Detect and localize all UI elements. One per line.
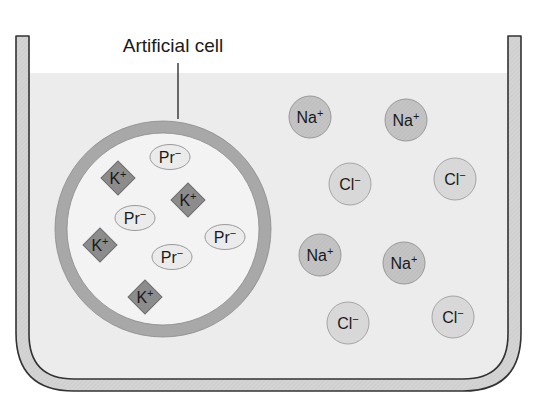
chloride-ion-symbol: Cl	[444, 171, 459, 188]
chloride-ion: Cl−	[329, 163, 371, 205]
potassium-ion-charge: +	[120, 168, 126, 180]
sodium-ion-charge: +	[317, 107, 323, 119]
protein-anion: Pr−	[115, 206, 155, 231]
protein-anion: Pr−	[150, 145, 190, 170]
potassium-ion-symbol: K	[109, 170, 120, 187]
potassium-ion-charge: +	[147, 287, 153, 299]
protein-anion: Pr−	[205, 225, 245, 250]
chloride-ion: Cl−	[432, 296, 474, 338]
potassium-ion-charge: +	[190, 190, 196, 202]
sodium-ion-symbol: Na	[393, 112, 414, 129]
protein-anion-charge: −	[175, 147, 181, 159]
chloride-ion-charge: −	[459, 169, 465, 181]
protein-anion: Pr−	[152, 245, 192, 270]
sodium-ion-symbol: Na	[297, 109, 318, 126]
sodium-ion-charge: +	[327, 245, 333, 257]
chloride-ion-charge: −	[457, 307, 463, 319]
chloride-ion-charge: −	[352, 313, 358, 325]
protein-anion-charge: −	[140, 208, 146, 220]
chloride-ion-symbol: Cl	[442, 309, 457, 326]
chloride-ion-charge: −	[354, 174, 360, 186]
artificial-cell-diagram: K+K+K+K+Pr−Pr−Pr−Pr− Na+Na+Cl−Cl−Na+Na+C…	[0, 0, 539, 411]
sodium-ion-charge: +	[413, 110, 419, 122]
protein-anion-charge: −	[177, 247, 183, 259]
artificial-cell-label: Artificial cell	[123, 35, 223, 56]
sodium-ion: Na+	[383, 242, 425, 284]
protein-anion-symbol: Pr	[214, 229, 231, 246]
sodium-ion: Na+	[385, 99, 427, 141]
chloride-ion: Cl−	[327, 302, 369, 344]
protein-anion-symbol: Pr	[161, 249, 178, 266]
sodium-ion-symbol: Na	[391, 255, 412, 272]
chloride-ion-symbol: Cl	[339, 176, 354, 193]
protein-anion-symbol: Pr	[159, 149, 176, 166]
chloride-ion: Cl−	[434, 158, 476, 200]
potassium-ion-charge: +	[102, 235, 108, 247]
potassium-ion-symbol: K	[136, 289, 147, 306]
sodium-ion: Na+	[289, 96, 331, 138]
sodium-ion-symbol: Na	[307, 247, 328, 264]
sodium-ion-charge: +	[411, 253, 417, 265]
diagram-stage: K+K+K+K+Pr−Pr−Pr−Pr− Na+Na+Cl−Cl−Na+Na+C…	[0, 0, 539, 411]
chloride-ion-symbol: Cl	[337, 315, 352, 332]
potassium-ion-symbol: K	[91, 237, 102, 254]
protein-anion-charge: −	[230, 227, 236, 239]
potassium-ion-symbol: K	[179, 192, 190, 209]
sodium-ion: Na+	[299, 234, 341, 276]
protein-anion-symbol: Pr	[124, 210, 141, 227]
